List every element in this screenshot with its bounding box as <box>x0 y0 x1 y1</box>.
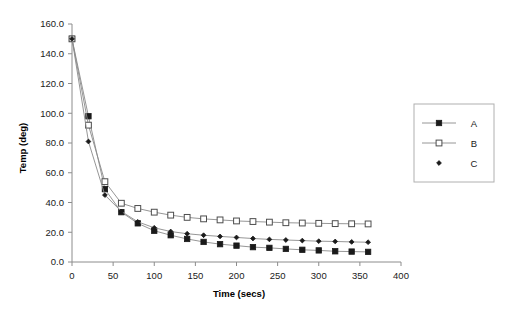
data-point-B <box>135 206 141 212</box>
data-point-A <box>349 249 354 254</box>
x-axis-tick-label: 100 <box>146 270 162 281</box>
data-point-B <box>168 212 174 218</box>
data-point-B <box>201 216 207 222</box>
x-axis-title: Time (secs) <box>213 288 265 299</box>
legend-label-C: C <box>471 158 478 169</box>
y-axis-title: Temp (deg) <box>17 123 28 174</box>
data-point-B <box>267 219 273 225</box>
data-point-B <box>349 221 355 227</box>
x-axis-tick-label: 350 <box>352 270 368 281</box>
data-point-B <box>332 221 338 227</box>
legend-marker-B <box>436 140 442 146</box>
data-point-A <box>333 249 338 254</box>
data-point-A <box>365 249 370 254</box>
y-axis-tick-label: 120.0 <box>40 78 64 89</box>
data-point-B <box>102 179 108 185</box>
data-point-A <box>316 248 321 253</box>
data-point-A <box>283 246 288 251</box>
x-axis-tick-label: 400 <box>393 270 409 281</box>
data-point-A <box>184 236 189 241</box>
chart-figure: 0.020.040.060.080.0100.0120.0140.0160.0 … <box>0 0 506 320</box>
y-axis-tick-label: 140.0 <box>40 48 64 59</box>
data-point-A <box>300 247 305 252</box>
data-point-B <box>234 218 240 224</box>
legend-label-B: B <box>471 138 477 149</box>
data-point-B <box>299 220 305 226</box>
data-point-A <box>234 243 239 248</box>
chart-legend: ABC <box>414 104 494 182</box>
data-point-B <box>151 209 157 215</box>
x-axis-tick-label: 300 <box>311 270 327 281</box>
data-point-A <box>250 244 255 249</box>
y-axis-tick-label: 40.0 <box>46 197 65 208</box>
x-axis-tick-label: 50 <box>108 270 119 281</box>
data-point-B <box>217 217 223 223</box>
x-axis-tick-label: 150 <box>187 270 203 281</box>
data-point-A <box>217 241 222 246</box>
data-point-B <box>250 219 256 225</box>
line-chart: 0.020.040.060.080.0100.0120.0140.0160.0 … <box>0 0 506 320</box>
data-point-B <box>184 214 190 220</box>
y-axis-tick-label: 60.0 <box>46 167 65 178</box>
y-axis-tick-label: 20.0 <box>46 227 65 238</box>
data-point-A <box>201 239 206 244</box>
data-point-A <box>267 245 272 250</box>
y-axis-tick-label: 80.0 <box>46 137 65 148</box>
x-axis-tick-label: 250 <box>270 270 286 281</box>
data-point-B <box>365 221 371 227</box>
data-point-B <box>316 220 322 226</box>
y-axis-tick-label: 100.0 <box>40 108 64 119</box>
y-axis-tick-label: 160.0 <box>40 18 64 29</box>
data-point-B <box>283 220 289 226</box>
x-axis-tick-label: 200 <box>229 270 245 281</box>
legend-marker-A <box>436 120 441 125</box>
x-axis-tick-label: 0 <box>69 270 74 281</box>
data-point-B <box>118 200 124 206</box>
y-axis-tick-label: 0.0 <box>51 256 64 267</box>
legend-label-A: A <box>471 118 478 129</box>
